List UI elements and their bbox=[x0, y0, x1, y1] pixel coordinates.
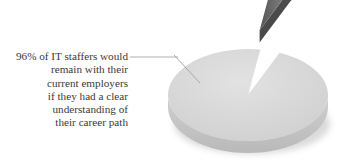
annotation-line: remain with their bbox=[4, 63, 128, 76]
annotation-text: 96% of IT staffers would remain with the… bbox=[4, 50, 128, 130]
annotation-line: 96% of IT staffers would bbox=[4, 50, 128, 63]
pie-slice-0 bbox=[168, 49, 328, 141]
annotation-line: current employers bbox=[4, 77, 128, 90]
pie-top bbox=[168, 49, 328, 141]
pie-wedge bbox=[260, 0, 292, 42]
annotation-line: their career path bbox=[4, 116, 128, 129]
annotation-line: if they had a clear bbox=[4, 90, 128, 103]
annotation-line: understanding of bbox=[4, 103, 128, 116]
